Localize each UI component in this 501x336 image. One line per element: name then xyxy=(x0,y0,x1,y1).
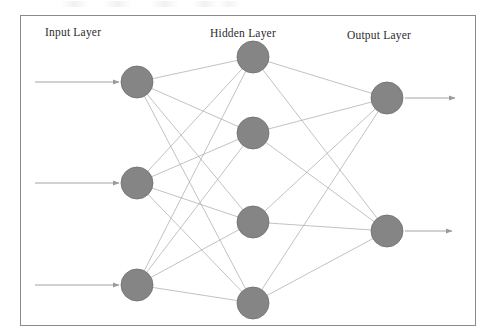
output-node-o1 xyxy=(371,82,403,114)
connection-line xyxy=(253,98,387,222)
connection-line xyxy=(253,222,387,231)
hidden-node-h4 xyxy=(237,287,269,319)
network-nodes xyxy=(121,41,403,319)
hidden-layer-label: Hidden Layer xyxy=(210,28,276,40)
connection-line xyxy=(137,82,253,133)
hidden-node-h3 xyxy=(237,206,269,238)
network-diagram-canvas xyxy=(0,0,501,336)
input-layer-label: Input Layer xyxy=(45,27,101,39)
input-node-i3 xyxy=(121,269,153,301)
connection-edges xyxy=(137,57,387,303)
connection-line xyxy=(253,133,387,231)
connection-line xyxy=(137,133,253,183)
output-layer-label: Output Layer xyxy=(347,30,411,42)
connection-line xyxy=(253,57,387,231)
connection-line xyxy=(137,57,253,82)
connection-line xyxy=(137,133,253,285)
connection-line xyxy=(137,57,253,285)
hidden-node-h1 xyxy=(237,41,269,73)
connection-line xyxy=(253,57,387,98)
input-node-i2 xyxy=(121,167,153,199)
output-node-o2 xyxy=(371,215,403,247)
connection-line xyxy=(137,57,253,183)
connection-line xyxy=(253,98,387,303)
connection-line xyxy=(137,222,253,285)
connection-line xyxy=(137,82,253,303)
connection-line xyxy=(253,231,387,303)
hidden-node-h2 xyxy=(237,117,269,149)
connection-line xyxy=(253,98,387,133)
input-node-i1 xyxy=(121,66,153,98)
connection-line xyxy=(137,183,253,222)
connection-line xyxy=(137,285,253,303)
neural-network-figure: Input Layer Hidden Layer Output Layer xyxy=(0,0,501,336)
